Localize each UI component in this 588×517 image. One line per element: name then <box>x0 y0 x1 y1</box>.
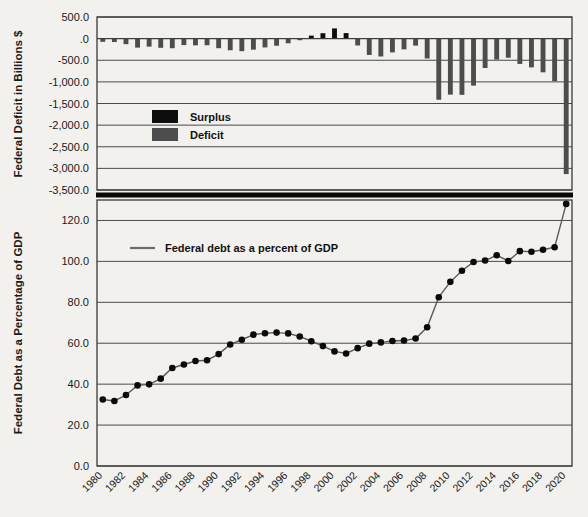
debt-data-point <box>250 331 257 338</box>
ytick-label-deficit: -1,000.0 <box>49 76 89 88</box>
debt-data-point <box>540 246 547 253</box>
debt-data-point <box>493 252 500 259</box>
bar-deficit <box>413 39 418 46</box>
debt-data-point <box>123 392 130 399</box>
bar-deficit <box>274 39 279 46</box>
bar-deficit <box>564 39 569 174</box>
debt-data-point <box>401 337 408 344</box>
debt-data-point <box>435 294 442 301</box>
bar-deficit <box>355 39 360 46</box>
bar-deficit <box>158 39 163 48</box>
xtick-label-year: 2000 <box>311 469 336 494</box>
bar-deficit <box>263 39 268 48</box>
ytick-label-debt: 0.0 <box>74 460 89 472</box>
legend-label-debt: Federal debt as a percent of GDP <box>165 242 338 254</box>
bar-surplus <box>320 33 325 38</box>
bar-surplus <box>344 33 349 39</box>
debt-data-point <box>482 257 489 264</box>
bar-deficit <box>541 39 546 73</box>
ytick-label-debt: 20.0 <box>68 419 89 431</box>
debt-data-point <box>215 351 222 358</box>
bar-deficit <box>286 39 291 44</box>
bar-deficit <box>390 39 395 53</box>
debt-data-point <box>551 244 558 251</box>
legend-swatch-deficit <box>152 128 178 141</box>
xtick-label-year: 1984 <box>126 469 151 494</box>
bar-deficit <box>239 39 244 52</box>
xtick-label-year: 2014 <box>473 469 498 494</box>
ytick-label-deficit: -1,500.0 <box>49 98 89 110</box>
bar-deficit <box>112 39 117 42</box>
xtick-label-year: 2002 <box>334 469 359 494</box>
bar-deficit <box>552 39 557 82</box>
debt-data-point <box>528 248 535 255</box>
chart-figure: 500.0.0-500.0-1,000.0-1,500.0-2,000.0-2,… <box>0 0 588 517</box>
debt-data-point <box>563 201 570 208</box>
legend-label-surplus: Surplus <box>190 111 231 123</box>
chart-canvas: 500.0.0-500.0-1,000.0-1,500.0-2,000.0-2,… <box>0 0 588 517</box>
debt-data-point <box>262 330 269 337</box>
debt-data-point <box>181 361 188 368</box>
bar-deficit <box>402 39 407 50</box>
ytick-label-deficit: -3,500.0 <box>49 184 89 196</box>
xtick-label-year: 2010 <box>427 469 452 494</box>
debt-data-point <box>320 343 327 350</box>
debt-data-point <box>343 350 350 357</box>
deficit-bar-chart: 500.0.0-500.0-1,000.0-1,500.0-2,000.0-2,… <box>12 11 572 196</box>
debt-data-point <box>378 339 385 346</box>
bar-deficit <box>483 39 488 68</box>
debt-data-point <box>285 330 292 337</box>
legend-label-deficit: Deficit <box>190 129 224 141</box>
debt-data-point <box>470 259 477 266</box>
debt-data-point <box>204 357 211 364</box>
y-axis-title-deficit: Federal Deficit in Billions $ <box>12 30 24 178</box>
xtick-label-year: 2004 <box>357 469 382 494</box>
bar-deficit <box>367 39 372 55</box>
bar-deficit <box>448 39 453 95</box>
bar-deficit <box>460 39 465 95</box>
debt-data-point <box>412 335 419 342</box>
bar-deficit <box>135 39 140 48</box>
bar-deficit <box>205 39 210 46</box>
bar-deficit <box>170 39 175 49</box>
bar-deficit <box>517 39 522 64</box>
debt-data-point <box>296 333 303 340</box>
bar-surplus <box>332 28 337 38</box>
bar-deficit <box>251 39 256 50</box>
debt-data-point <box>447 279 454 286</box>
ytick-label-deficit: -2,500.0 <box>49 141 89 153</box>
debt-data-point <box>424 324 431 331</box>
debt-data-point <box>169 365 176 372</box>
xtick-label-year: 1982 <box>102 469 127 494</box>
ytick-label-deficit: -500.0 <box>58 54 89 66</box>
ytick-label-debt: 60.0 <box>68 337 89 349</box>
xtick-label-year: 1986 <box>149 469 174 494</box>
bar-deficit <box>436 39 441 100</box>
debt-data-point <box>354 345 361 352</box>
bar-deficit <box>228 39 233 51</box>
xtick-label-year: 2012 <box>450 469 475 494</box>
bar-deficit <box>471 39 476 86</box>
ytick-label-deficit: .0 <box>80 33 89 45</box>
xtick-label-year: 1988 <box>172 469 197 494</box>
debt-data-point <box>505 258 512 265</box>
plot-frame-debt <box>97 200 572 466</box>
bar-deficit <box>529 39 534 68</box>
bar-deficit <box>181 39 186 45</box>
xtick-label-year: 2018 <box>519 469 544 494</box>
bar-deficit <box>124 39 129 45</box>
ytick-label-debt: 100.0 <box>61 255 89 267</box>
bar-deficit <box>425 39 430 59</box>
ytick-label-debt: 40.0 <box>68 378 89 390</box>
debt-data-point <box>389 338 396 345</box>
debt-data-point <box>157 375 164 382</box>
debt-data-point <box>366 340 373 347</box>
bar-deficit <box>494 39 499 60</box>
debt-data-point <box>459 268 466 275</box>
ytick-label-debt: 120.0 <box>61 214 89 226</box>
bar-deficit <box>216 39 221 49</box>
xtick-label-year: 1998 <box>288 469 313 494</box>
xtick-label-year: 2006 <box>380 469 405 494</box>
xtick-label-year: 2016 <box>496 469 521 494</box>
legend-swatch-surplus <box>152 110 178 123</box>
